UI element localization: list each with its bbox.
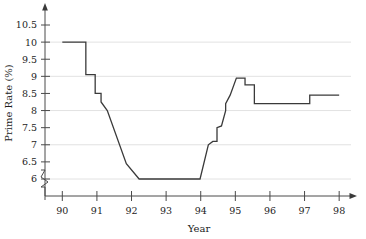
y-tick-label-6: 6	[31, 173, 37, 184]
x-tick-label-96: 96	[264, 205, 276, 216]
y-tick-label-9: 9	[31, 71, 37, 82]
y-tick-label-8: 8	[31, 105, 37, 116]
y-tick-label-9.5: 9.5	[22, 54, 37, 65]
y-tick-label-7: 7	[31, 139, 37, 150]
chart-canvas: 66.577.588.599.51010.5 90919293949596979…	[0, 0, 366, 239]
x-tick-label-95: 95	[229, 205, 241, 216]
x-tick-label-92: 92	[125, 205, 137, 216]
y-axis	[41, 3, 48, 200]
x-tick-label-91: 91	[91, 205, 103, 216]
y-tick-label-8.5: 8.5	[22, 88, 37, 99]
y-axis-arrowhead	[42, 3, 48, 11]
x-axis-arrowhead	[350, 193, 358, 199]
y-tick-label-group: 66.577.588.599.51010.5	[16, 19, 37, 184]
x-tick-label-94: 94	[195, 205, 207, 216]
x-tick-label-group: 909192939495969798	[56, 205, 345, 216]
y-tick-label-10.5: 10.5	[16, 19, 37, 30]
x-tick-label-97: 97	[299, 205, 311, 216]
x-tick-label-93: 93	[160, 205, 172, 216]
y-tick-label-7.5: 7.5	[22, 122, 37, 133]
x-axis-title: Year	[187, 223, 211, 234]
x-tick-label-98: 98	[333, 205, 345, 216]
x-tick-label-90: 90	[56, 205, 68, 216]
prime-rate-line-chart: 66.577.588.599.51010.5 90919293949596979…	[0, 0, 366, 239]
y-tick-label-6.5: 6.5	[22, 156, 37, 167]
gridline-group	[45, 42, 351, 179]
y-axis-title: Prime Rate (%)	[3, 64, 14, 142]
y-tick-label-10: 10	[25, 37, 37, 48]
